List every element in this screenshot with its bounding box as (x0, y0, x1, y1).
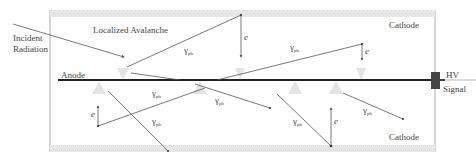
cathode-bottom-plate (50, 145, 435, 152)
cathode-top-plate (50, 10, 435, 17)
electron-label: e (334, 116, 338, 126)
svg-text:γph: γph (214, 95, 224, 106)
gamma-labels: γph γph γph γph γph γph γph (151, 42, 372, 127)
gamma-subscript: ph (156, 94, 162, 99)
electron-label: e (365, 46, 369, 56)
svg-text:γph: γph (289, 42, 299, 53)
localized-avalanche-label: Localized Avalanche (93, 25, 168, 35)
electron-label: e (244, 32, 248, 42)
gamma-subscript: ph (156, 122, 162, 127)
svg-text:γph: γph (362, 105, 372, 116)
svg-text:γph: γph (151, 88, 161, 99)
anode-label: Anode (61, 70, 85, 80)
svg-text:γph: γph (151, 116, 161, 127)
hv-connector (431, 72, 440, 89)
cathode-bottom-label: Cathode (389, 132, 419, 142)
gamma-subscript: ph (297, 122, 303, 127)
gamma-subscript: ph (219, 101, 225, 106)
avalanche-diagram: Incident Radiation Localized Avalanche C… (0, 0, 476, 165)
svg-text:γph: γph (292, 116, 302, 127)
hv-label: HV (446, 70, 459, 80)
incident-label-line2: Radiation (13, 44, 48, 54)
gamma-subscript: ph (367, 111, 373, 116)
cathode-top-label: Cathode (389, 20, 419, 30)
svg-text:γph: γph (183, 45, 193, 56)
electron-label: e (91, 109, 95, 119)
photon-paths (98, 15, 403, 151)
incident-label-line1: Incident (13, 33, 43, 43)
signal-label: Signal (443, 84, 467, 94)
gamma-subscript: ph (188, 51, 194, 56)
gamma-subscript: ph (294, 48, 300, 53)
